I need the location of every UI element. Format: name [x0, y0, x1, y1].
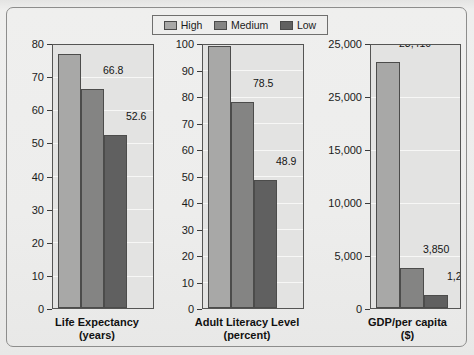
legend-item-low: Low	[280, 20, 316, 31]
y-axis-tick-text: 25,000	[328, 91, 362, 103]
plot-area: 77.366.852.6	[52, 44, 154, 309]
chart-figure: High Medium Low 77.366.852.6 01020304050…	[0, 0, 474, 355]
legend-item-medium: Medium	[214, 20, 268, 31]
y-axis-tick-text: 5,000	[334, 250, 362, 262]
y-axis-tick-label: 80	[32, 38, 52, 50]
y-axis-tick-label: 0	[356, 303, 370, 315]
y-axis-tick-text: 60	[32, 104, 44, 116]
y-axis-tick-label: 50	[182, 171, 202, 183]
y-axis-tick-label: 20	[32, 237, 52, 249]
y-axis-tick-label: 15,000	[328, 144, 370, 156]
y-axis-tick-label: 25,000	[328, 91, 370, 103]
bar-group: 77.366.852.6	[53, 45, 153, 308]
y-axis-tick-label: 30	[32, 204, 52, 216]
y-axis-tick-label: 10	[182, 277, 202, 289]
bar-medium	[81, 89, 104, 308]
y-axis-tick-label: 70	[32, 71, 52, 83]
y-axis-tick-label: 5,000	[334, 250, 370, 262]
bar-slot: 3,850	[400, 45, 424, 308]
y-axis-tick-label: 60	[182, 144, 202, 156]
legend-swatch-high	[164, 21, 177, 30]
y-axis-tick-label: 10,000	[328, 197, 370, 209]
bar-slot: 1,200	[424, 45, 448, 308]
plot-axis-area: 77.366.852.6 01020304050607080	[14, 44, 156, 309]
y-axis-tick-text: 10,000	[328, 197, 362, 209]
bar-slot: 66.8	[81, 45, 104, 308]
y-axis-tick-mark	[197, 283, 202, 284]
y-axis-tick-mark	[197, 71, 202, 72]
legend-label-medium: Medium	[231, 20, 268, 31]
y-axis-tick-mark	[365, 150, 370, 151]
y-axis-tick-text: 40	[32, 171, 44, 183]
y-axis-tick-label: 40	[32, 171, 52, 183]
panel-x-label-sub: (years)	[38, 329, 156, 342]
y-axis-tick-mark	[365, 309, 370, 310]
y-axis-tick-text: 0	[38, 303, 44, 315]
y-axis-tick-mark	[197, 44, 202, 45]
y-axis-tick-label: 0	[38, 303, 52, 315]
panel-x-label: GDP/per capita ($)	[352, 316, 463, 342]
bar-slot: 77.3	[58, 45, 81, 308]
bar-slot: 99.9	[208, 45, 231, 308]
y-axis-tick-text: 25,000	[328, 38, 362, 50]
plot-axis-area: 99.978.548.9 0102030405060708090100	[158, 44, 306, 309]
y-axis-tick-mark	[197, 230, 202, 231]
y-axis-tick-label: 10	[32, 270, 52, 282]
bar-value-label: 48.9	[276, 155, 296, 167]
bar-low	[424, 295, 448, 308]
y-axis-tick-mark	[197, 124, 202, 125]
y-axis-tick-label: 60	[32, 104, 52, 116]
bar-medium	[231, 102, 254, 308]
legend-label-low: Low	[297, 20, 316, 31]
chart-legend: High Medium Low	[152, 15, 328, 35]
y-axis-tick-label: 50	[32, 137, 52, 149]
panel-x-label-sub: (percent)	[188, 329, 306, 342]
y-axis-tick-mark	[197, 150, 202, 151]
y-axis-tick-text: 10	[32, 270, 44, 282]
y-axis-tick-mark	[47, 276, 52, 277]
y-axis-tick-label: 20	[182, 250, 202, 262]
panel-x-label: Adult Literacy Level (percent)	[188, 316, 306, 342]
y-axis-tick-mark	[47, 44, 52, 45]
y-axis-tick-text: 90	[182, 65, 194, 77]
bar-group: 23,4103,8501,200	[371, 45, 460, 308]
y-axis-tick-text: 15,000	[328, 144, 362, 156]
y-axis-tick-text: 30	[32, 204, 44, 216]
y-axis-tick-label: 0	[188, 303, 202, 315]
y-axis-tick-mark	[365, 203, 370, 204]
bar-slot: 52.6	[104, 45, 127, 308]
y-axis-tick-text: 80	[32, 38, 44, 50]
y-axis-tick-mark	[197, 256, 202, 257]
y-axis-tick-text: 100	[176, 38, 194, 50]
y-axis-tick-mark	[47, 143, 52, 144]
bar-value-label: 1,200	[447, 270, 461, 282]
y-axis-tick-label: 80	[182, 91, 202, 103]
y-axis-tick-text: 30	[182, 224, 194, 236]
plot-area: 99.978.548.9	[202, 44, 304, 309]
chart-panel-adult-literacy: 99.978.548.9 0102030405060708090100 Adul…	[158, 44, 306, 309]
y-axis-tick-mark	[365, 97, 370, 98]
bar-slot: 48.9	[254, 45, 277, 308]
y-axis-tick-text: 70	[32, 71, 44, 83]
legend-swatch-low	[280, 21, 293, 30]
chart-panel-gdp-per-capita: 23,4103,8501,200 05,00010,00015,00025,00…	[308, 44, 463, 309]
y-axis-tick-text: 20	[182, 250, 194, 262]
plot-area: 23,4103,8501,200	[370, 44, 461, 309]
y-axis-tick-mark	[197, 177, 202, 178]
y-axis-tick-mark	[47, 110, 52, 111]
panel-x-label-main: Life Expectancy	[55, 316, 139, 328]
legend-swatch-medium	[214, 21, 227, 30]
bar-group: 99.978.548.9	[203, 45, 303, 308]
legend-item-high: High	[164, 20, 203, 31]
panel-x-label-main: GDP/per capita	[368, 316, 447, 328]
bar-low	[254, 180, 277, 308]
y-axis-tick-mark	[197, 309, 202, 310]
panel-x-label: Life Expectancy (years)	[38, 316, 156, 342]
y-axis-tick-text: 50	[32, 137, 44, 149]
bar-low	[104, 135, 127, 308]
y-axis-tick-text: 0	[188, 303, 194, 315]
bar-high	[376, 62, 400, 308]
y-axis-tick-label: 25,000	[328, 38, 370, 50]
y-axis-tick-text: 0	[356, 303, 362, 315]
y-axis-tick-mark	[47, 243, 52, 244]
